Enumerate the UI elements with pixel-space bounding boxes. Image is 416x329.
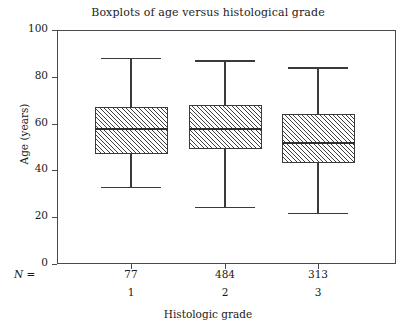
median-line: [282, 142, 355, 143]
n-count-grade-3: 313: [288, 268, 348, 280]
box-iqr: [282, 114, 355, 163]
x-tick-label-grade-1: 1: [101, 286, 161, 298]
upper-whisker-stem: [224, 60, 225, 104]
x-tick-label-grade-2: 2: [195, 286, 255, 298]
y-axis-title: Age (years): [18, 79, 30, 189]
lower-whisker-stem: [130, 154, 131, 187]
upper-whisker-stem: [130, 58, 131, 107]
box-iqr: [95, 107, 168, 154]
box-iqr: [189, 105, 262, 149]
y-tick-label: 60: [35, 116, 48, 128]
y-tick-label: 100: [28, 22, 48, 34]
median-line: [189, 128, 262, 129]
n-equals-label: N =: [14, 268, 35, 280]
y-tick-mark: [52, 264, 57, 265]
median-line: [95, 128, 168, 129]
chart-title: Boxplots of age versus histological grad…: [0, 6, 416, 19]
upper-whisker-stem: [317, 67, 318, 114]
upper-whisker-cap: [195, 60, 255, 61]
y-tick-label: 80: [35, 69, 48, 81]
n-count-grade-1: 77: [101, 268, 161, 280]
upper-whisker-cap: [101, 58, 161, 59]
y-tick-label: 0: [41, 256, 48, 268]
lower-whisker-cap: [288, 213, 348, 214]
lower-whisker-cap: [195, 207, 255, 208]
boxplot-figure: Boxplots of age versus histological grad…: [0, 0, 416, 329]
lower-whisker-stem: [224, 149, 225, 206]
n-count-grade-2: 484: [195, 268, 255, 280]
x-axis-title: Histologic grade: [0, 308, 416, 320]
y-tick-label: 20: [35, 209, 48, 221]
lower-whisker-stem: [317, 163, 318, 212]
x-tick-label-grade-3: 3: [288, 286, 348, 298]
y-tick-label: 40: [35, 162, 48, 174]
upper-whisker-cap: [288, 67, 348, 68]
lower-whisker-cap: [101, 187, 161, 188]
